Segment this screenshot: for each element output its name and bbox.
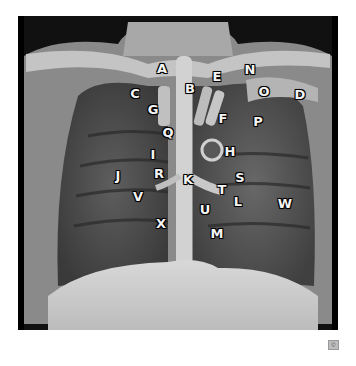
copyright-icon: © xyxy=(328,340,339,350)
label-m: M xyxy=(211,227,224,240)
label-j: J xyxy=(116,169,121,182)
label-a: A xyxy=(157,62,167,75)
label-b: B xyxy=(185,82,195,95)
label-g: G xyxy=(148,103,159,116)
label-v: V xyxy=(133,190,143,203)
label-w: W xyxy=(278,197,292,210)
label-k: K xyxy=(183,173,193,186)
label-o: O xyxy=(258,85,269,98)
thorax-dissection-image xyxy=(18,16,338,330)
label-s: S xyxy=(235,171,244,184)
dissection-photo-frame xyxy=(18,16,338,330)
label-p: P xyxy=(253,115,263,128)
label-i: I xyxy=(151,148,156,161)
label-r: R xyxy=(154,167,164,180)
label-e: E xyxy=(213,70,222,83)
label-x: X xyxy=(156,217,166,230)
label-l: L xyxy=(234,195,242,208)
label-q: Q xyxy=(162,126,173,139)
label-f: F xyxy=(219,112,228,125)
label-d: D xyxy=(295,88,306,101)
label-n: N xyxy=(245,63,256,76)
label-t: T xyxy=(218,183,227,196)
label-u: U xyxy=(200,203,211,216)
label-c: C xyxy=(130,87,140,100)
label-h: H xyxy=(225,145,236,158)
